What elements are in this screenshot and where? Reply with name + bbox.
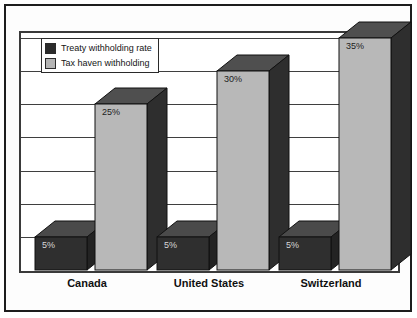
bar-tax-haven-switzerland: 35% <box>339 38 391 270</box>
legend-swatch-tax-haven <box>45 58 56 69</box>
bar-tax-haven-canada: 25% <box>95 104 147 270</box>
legend-label-tax-haven: Tax haven withholding <box>61 58 150 69</box>
legend-item-treaty: Treaty withholding rate <box>45 41 155 56</box>
bar-value-label: 30% <box>224 74 242 84</box>
bar-value-label: 5% <box>42 240 55 250</box>
category-label-united-states: United States <box>149 277 269 289</box>
category-label-switzerland: Switzerland <box>271 277 391 289</box>
bar-treaty-switzerland: 5% <box>279 237 331 270</box>
legend-item-tax-haven: Tax haven withholding <box>45 56 155 71</box>
bar-value-label: 25% <box>102 107 120 117</box>
category-label-canada: Canada <box>27 277 147 289</box>
chart-legend: Treaty withholding rate Tax haven withho… <box>41 38 159 73</box>
bar-value-label: 5% <box>164 240 177 250</box>
chart-screenshot: 5%25%5%30%5%35% Treaty withholding rate … <box>0 0 417 318</box>
bar-treaty-united-states: 5% <box>157 237 209 270</box>
bar-value-label: 5% <box>286 240 299 250</box>
bar-treaty-canada: 5% <box>35 237 87 270</box>
bar-tax-haven-united-states: 30% <box>217 71 269 270</box>
bar-value-label: 35% <box>346 41 364 51</box>
legend-label-treaty: Treaty withholding rate <box>61 43 152 54</box>
legend-swatch-treaty <box>45 43 56 54</box>
